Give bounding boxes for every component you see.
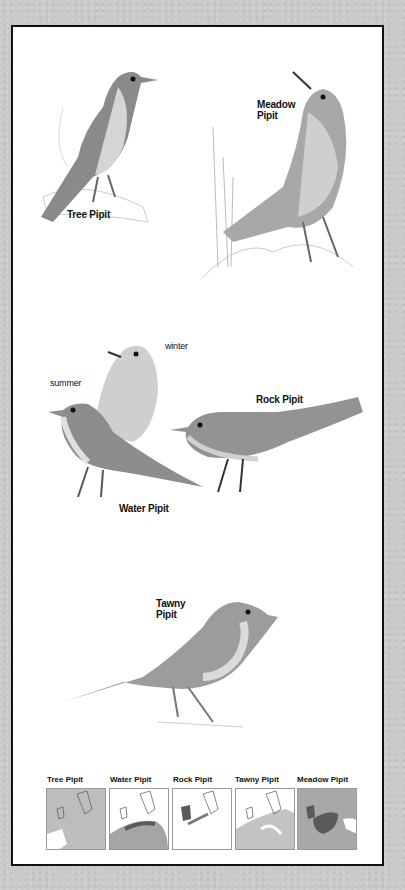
meadow-pipit-label: Meadow Pipit xyxy=(257,99,295,121)
water-pipit-summer-label: summer xyxy=(50,378,81,389)
range-map-tree-pipit xyxy=(46,788,106,850)
tawny-pipit-label-line2: Pipit xyxy=(156,609,185,620)
europe-map-shape xyxy=(173,789,232,850)
meadow-pipit-label-line1: Meadow xyxy=(257,99,295,110)
water-pipit-winter-label: winter xyxy=(165,341,188,352)
europe-map-shape xyxy=(47,789,106,850)
europe-map-shape xyxy=(110,789,169,850)
rock-pipit-label: Rock Pipit xyxy=(256,394,303,405)
range-map-rock-pipit xyxy=(172,788,232,850)
range-map-water-pipit xyxy=(109,788,169,850)
water-pipit-label: Water Pipit xyxy=(119,503,169,514)
map-title-rock-pipit: Rock Pipit xyxy=(173,775,212,784)
map-title-meadow-pipit: Meadow Pipit xyxy=(297,775,348,784)
range-map-meadow-pipit xyxy=(297,788,357,850)
rock-pipit-illustration xyxy=(168,387,368,507)
tawny-pipit-label-line1: Tawny xyxy=(156,598,185,609)
map-title-tawny-pipit: Tawny Pipit xyxy=(235,775,279,784)
map-title-water-pipit: Water Pipit xyxy=(110,775,151,784)
europe-map-shape xyxy=(236,789,295,850)
range-map-tawny-pipit xyxy=(235,788,295,850)
map-title-tree-pipit: Tree Pipit xyxy=(47,775,83,784)
illustration-plate: Tree Pipit Meadow Pipit winter summer Wa… xyxy=(11,25,384,866)
tawny-pipit-label: Tawny Pipit xyxy=(156,598,185,620)
range-maps: Tree Pipit Water Pipit Rock Pipit Tawny … xyxy=(35,775,375,855)
meadow-pipit-label-line2: Pipit xyxy=(257,110,295,121)
europe-map-shape xyxy=(298,789,357,850)
tree-pipit-label: Tree Pipit xyxy=(67,209,110,220)
